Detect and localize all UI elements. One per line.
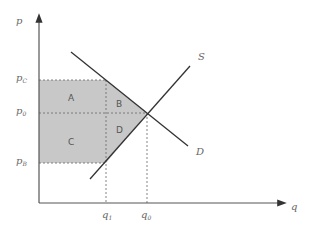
y-axis-label: p	[16, 15, 23, 26]
x-axis-label: q	[291, 201, 297, 212]
region-label-c: C	[68, 137, 74, 147]
price-label-pb: pB	[16, 155, 27, 167]
demand-label: D	[195, 146, 204, 157]
supply-demand-diagram: p q pC p0 pB q1 q0 S D A B C D	[0, 0, 319, 232]
region-label-a: A	[68, 93, 75, 103]
region-label-d: D	[116, 125, 123, 135]
price-label-p0: p0	[16, 105, 26, 117]
region-shaded-area	[39, 80, 147, 163]
quantity-label-q1: q1	[102, 209, 112, 221]
quantity-label-q0: q0	[141, 209, 151, 221]
supply-label: S	[198, 51, 205, 62]
region-label-b: B	[116, 99, 122, 109]
price-label-pc: pC	[16, 72, 27, 84]
